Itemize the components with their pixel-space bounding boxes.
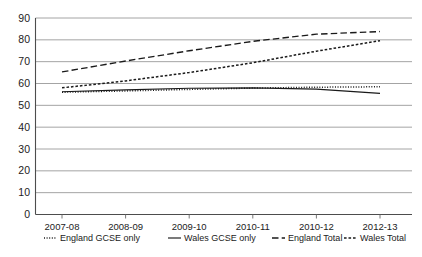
x-axis-tick-label: 2010-12 — [299, 221, 334, 232]
y-axis-tick-label: 0 — [24, 208, 30, 220]
y-axis-tick-label: 50 — [18, 99, 30, 111]
series-line-wales-total — [62, 41, 380, 88]
legend-label: Wales Total — [360, 233, 406, 243]
line-chart: 9080706050403020100 2007-082008-092009-1… — [0, 0, 422, 257]
x-axis-tick-label: 2009-10 — [172, 221, 207, 232]
y-axis-tick-label: 20 — [18, 164, 30, 176]
y-axis-tick-label: 90 — [18, 12, 30, 24]
y-axis-tick-label: 70 — [18, 55, 30, 67]
legend-label: Wales GCSE only — [184, 233, 256, 243]
series-lines — [62, 32, 380, 94]
legend-label: England GCSE only — [60, 233, 141, 243]
x-axis-tick-labels: 2007-082008-092009-102010-112010-122012-… — [45, 221, 398, 232]
x-axis-tick-label: 2012-13 — [363, 221, 398, 232]
y-axis-tick-label: 30 — [18, 143, 30, 155]
legend-label: England Total — [288, 233, 342, 243]
y-axis-tick-label: 10 — [18, 186, 30, 198]
x-axis-tickmarks — [62, 215, 380, 219]
series-line-england-total — [62, 32, 380, 72]
y-axis-tick-label: 40 — [18, 121, 30, 133]
x-axis-tick-label: 2008-09 — [108, 221, 143, 232]
x-axis-tick-label: 2010-11 — [236, 221, 270, 232]
x-axis-tick-label: 2007-08 — [45, 221, 80, 232]
chart-svg: 9080706050403020100 2007-082008-092009-1… — [0, 0, 422, 257]
y-axis-tick-labels: 9080706050403020100 — [18, 12, 30, 221]
y-axis-tick-label: 60 — [18, 77, 30, 89]
gridlines — [36, 18, 413, 193]
chart-legend: England GCSE onlyWales GCSE onlyEngland … — [44, 233, 406, 243]
y-axis-tick-label: 80 — [18, 33, 30, 45]
